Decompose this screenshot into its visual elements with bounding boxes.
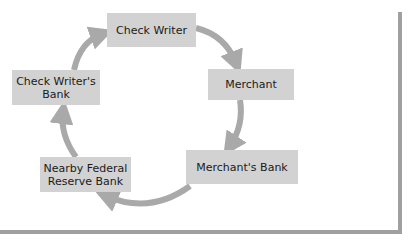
arrow-merchant-to-merchants-bank xyxy=(230,100,241,146)
node-label-line-2: Reserve Bank xyxy=(48,175,123,188)
node-label: Merchant's Bank xyxy=(196,161,287,174)
arrow-check-writers-bank-to-check-writer xyxy=(74,34,102,70)
cycle-arrows xyxy=(0,0,413,245)
node-label-line-2: Bank xyxy=(42,88,70,101)
node-merchants-bank: Merchant's Bank xyxy=(186,150,298,184)
node-label-line-1: Check Writer's xyxy=(16,75,96,88)
node-check-writer: Check Writer xyxy=(107,13,196,47)
node-check-writers-bank: Check Writer's Bank xyxy=(12,70,100,105)
node-merchant: Merchant xyxy=(208,69,294,100)
arrow-check-writer-to-merchant xyxy=(196,28,236,63)
node-label-line-1: Nearby Federal xyxy=(44,162,128,175)
node-federal-reserve-bank: Nearby Federal Reserve Bank xyxy=(40,157,131,192)
node-label: Check Writer xyxy=(116,24,187,37)
arrow-fed-to-check-writers-bank xyxy=(63,112,76,157)
node-label: Merchant xyxy=(225,78,277,91)
